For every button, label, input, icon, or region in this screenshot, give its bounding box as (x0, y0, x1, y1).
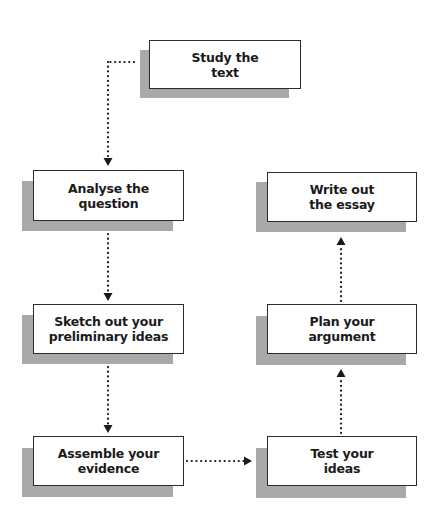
node-box: Test your ideas (267, 436, 417, 486)
arrowhead-down-icon (104, 293, 113, 301)
node-label: Assemble your evidence (58, 446, 159, 476)
node-label: Sketch out your preliminary ideas (49, 314, 169, 344)
node-box: Write out the essay (267, 172, 417, 222)
edge-assemble-to-test (187, 457, 252, 466)
essay-writing-flowchart: Study the text Analyse the question Sket… (0, 0, 438, 523)
node-box: Assemble your evidence (33, 436, 184, 486)
node-box: Sketch out your preliminary ideas (33, 304, 184, 354)
arrowhead-up-icon (337, 237, 346, 245)
node-label: Test your ideas (310, 446, 373, 476)
arrowhead-up-icon (337, 369, 346, 377)
edge-sketch-to-assemble (104, 367, 113, 433)
node-label: Write out the essay (309, 182, 374, 212)
edge-analyse-to-sketch (104, 234, 113, 301)
arrowhead-right-icon (244, 457, 252, 466)
node-box: Analyse the question (33, 170, 184, 221)
arrowhead-down-icon (104, 425, 113, 433)
edge-test-to-plan (337, 369, 346, 433)
arrowhead-down-icon (104, 158, 113, 166)
node-label: Plan your argument (308, 314, 375, 344)
node-box: Study the text (149, 40, 301, 89)
edge-plan-to-write (337, 237, 346, 301)
node-label: Analyse the question (68, 181, 149, 211)
node-label: Study the text (192, 50, 259, 80)
edge-study-to-analyse (104, 62, 135, 166)
node-box: Plan your argument (267, 304, 417, 354)
